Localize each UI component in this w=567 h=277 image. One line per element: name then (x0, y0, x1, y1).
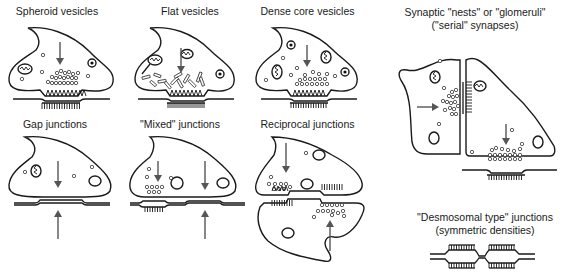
mitochondrion-icon (181, 50, 193, 59)
mitochondrion-icon (31, 165, 41, 177)
label-gap-junctions: Gap junctions (15, 118, 95, 130)
arrow-up-icon (201, 210, 209, 239)
mitochondrion-icon (321, 51, 331, 63)
dense-core-vesicle-icon (216, 70, 224, 78)
dense-core-vesicle-icon (287, 41, 295, 49)
mitochondrion-icon (18, 64, 32, 74)
label-reciprocal-junctions: Reciprocal junctions (255, 118, 360, 130)
mixed-junctions-diagram (125, 133, 250, 243)
mitochondrion-icon (430, 71, 440, 83)
spheroid-vesicles-diagram (0, 20, 120, 115)
dense-core-vesicles-diagram (253, 20, 373, 115)
synaptic-nests-lower (392, 140, 567, 200)
label-spheroid-vesicles: Spheroid vesicles (12, 5, 102, 17)
label-serial-synapses: ("serial" synapses) (395, 19, 555, 31)
dense-core-vesicle-icon (88, 59, 96, 67)
mitochondrion-icon (89, 176, 101, 186)
label-dense-core-vesicles: Dense core vesicles (255, 5, 360, 17)
mitochondrion-icon (217, 178, 229, 188)
gap-junctions-diagram (0, 133, 120, 243)
label-mixed-junctions: "Mixed" junctions (130, 118, 230, 130)
label-synaptic-nests: Synaptic "nests" or "glomeruli" (395, 6, 555, 18)
arrow-up-icon (54, 210, 62, 239)
desmosomal-junctions-diagram (425, 242, 550, 274)
label-desmosomal-junctions: "Desmosomal type" junctions (410, 211, 560, 223)
flat-vesicles-diagram (130, 20, 250, 115)
dense-core-vesicle-icon (341, 68, 349, 76)
mitochondrion-icon (272, 65, 282, 79)
mitochondrion-icon (301, 179, 313, 189)
label-flat-vesicles: Flat vesicles (150, 5, 230, 17)
mitochondrion-icon (282, 228, 294, 238)
reciprocal-junctions-diagram (252, 133, 372, 273)
label-symmetric-densities: (symmetric densities) (410, 224, 560, 236)
mitochondrion-icon (474, 81, 486, 91)
mitochondrion-icon (313, 150, 325, 160)
